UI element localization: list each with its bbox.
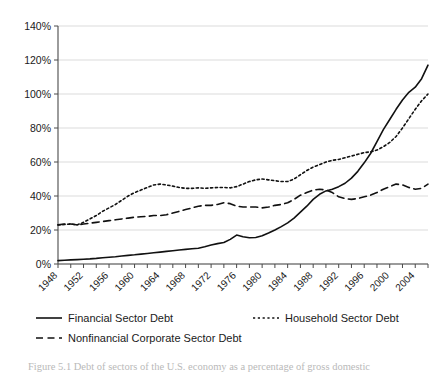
legend-item: Household Sector Debt xyxy=(253,312,399,324)
x-axis-tick-label: 1996 xyxy=(342,269,366,293)
debt-sectors-line-chart: 0%20%40%60%80%100%120%140%19481952195619… xyxy=(0,0,441,373)
x-axis-tick-label: 1952 xyxy=(61,269,85,293)
legend-label: Household Sector Debt xyxy=(285,312,399,324)
x-axis-tick-label: 2004 xyxy=(393,269,417,293)
figure-caption: Figure 5.1 Debt of sectors of the U.S. e… xyxy=(28,361,370,372)
x-axis-tick-label: 1960 xyxy=(112,269,136,293)
x-axis-tick-label: 1956 xyxy=(87,269,111,293)
x-axis-tick-label: 1968 xyxy=(163,269,187,293)
legend-item: Nonfinancial Corporate Sector Debt xyxy=(36,332,242,344)
legend-label: Financial Sector Debt xyxy=(68,312,173,324)
x-axis-tick-label: 1976 xyxy=(215,269,239,293)
x-axis-tick-label: 1984 xyxy=(266,269,290,293)
series-line-financial xyxy=(58,65,428,261)
x-axis-tick-label: 1948 xyxy=(36,269,60,293)
chart-legend: Financial Sector DebtHousehold Sector De… xyxy=(36,312,399,344)
series-line-corporate xyxy=(58,184,428,225)
x-axis-tick-label: 1964 xyxy=(138,269,162,293)
y-axis-tick-label: 120% xyxy=(24,54,51,66)
figure-container: 0%20%40%60%80%100%120%140%19481952195619… xyxy=(0,0,441,373)
y-axis-tick-label: 80% xyxy=(30,122,51,134)
x-axis-group: 1948195219561960196419681972197619801984… xyxy=(36,264,428,293)
y-axis-tick-label: 140% xyxy=(24,20,51,32)
series-line-household xyxy=(58,94,428,225)
y-axis-tick-label: 20% xyxy=(30,224,51,236)
x-axis-tick-label: 1992 xyxy=(317,269,341,293)
x-axis-tick-label: 2000 xyxy=(368,269,392,293)
gridlines-group: 0%20%40%60%80%100%120%140% xyxy=(24,20,428,270)
y-axis-tick-label: 100% xyxy=(24,88,51,100)
legend-item: Financial Sector Debt xyxy=(36,312,173,324)
x-axis-tick-label: 1980 xyxy=(240,269,264,293)
y-axis-tick-label: 0% xyxy=(36,258,51,270)
x-axis-tick-label: 1972 xyxy=(189,269,213,293)
y-axis-tick-label: 40% xyxy=(30,190,51,202)
x-axis-tick-label: 1988 xyxy=(291,269,315,293)
y-axis-tick-label: 60% xyxy=(30,156,51,168)
series-group xyxy=(58,65,428,261)
legend-label: Nonfinancial Corporate Sector Debt xyxy=(68,332,242,344)
